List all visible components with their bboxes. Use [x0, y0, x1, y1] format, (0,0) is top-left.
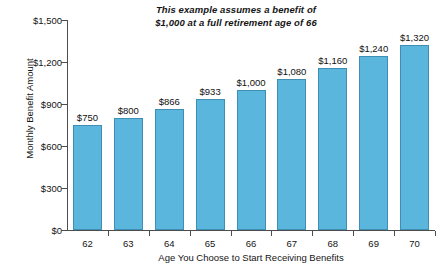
bar-value-label: $1,000 — [236, 77, 265, 88]
bar-value-label: $800 — [118, 105, 139, 116]
x-axis-tick-mark — [435, 231, 436, 236]
x-axis-title: Age You Choose to Start Receiving Benefi… — [67, 252, 435, 263]
y-axis-tick-mark — [61, 20, 67, 21]
x-axis-tick-mark — [190, 231, 191, 236]
x-axis-tick-mark — [108, 231, 109, 236]
y-axis-tick-label: $1,500 — [0, 15, 62, 26]
x-axis-category-label: 68 — [327, 238, 338, 249]
x-axis-tick-mark — [231, 231, 232, 236]
bar — [318, 68, 347, 230]
y-axis-tick-label: $600 — [0, 141, 62, 152]
bar-value-label: $750 — [77, 112, 98, 123]
x-axis-line — [67, 230, 435, 231]
x-axis-category-label: 70 — [409, 238, 420, 249]
x-axis-tick-mark — [149, 231, 150, 236]
bar-chart: This example assumes a benefit of $1,000… — [0, 0, 444, 270]
y-axis-tick-mark — [61, 62, 67, 63]
y-axis-tick-mark — [61, 188, 67, 189]
x-axis-category-label: 64 — [164, 238, 175, 249]
bar — [237, 90, 266, 230]
bar — [114, 118, 143, 230]
x-axis-tick-mark — [271, 231, 272, 236]
x-axis-tick-mark — [353, 231, 354, 236]
bar — [73, 125, 102, 230]
y-axis-tick-label: $900 — [0, 99, 62, 110]
y-axis-tick-label: $300 — [0, 183, 62, 194]
bar-value-label: $1,080 — [277, 66, 306, 77]
y-axis-tick-mark — [61, 146, 67, 147]
x-axis-category-label: 67 — [287, 238, 298, 249]
x-axis-tick-mark — [312, 231, 313, 236]
y-axis-tick-mark — [61, 104, 67, 105]
y-axis-line — [67, 20, 68, 231]
y-axis-tick-label: $1,200 — [0, 57, 62, 68]
chart-annotation-line-2: $1,000 at a full retirement age of 66 — [136, 17, 336, 30]
bar — [359, 56, 388, 230]
bar — [196, 99, 225, 230]
x-axis-category-label: 69 — [368, 238, 379, 249]
y-axis-tick-mark — [61, 230, 67, 231]
bar-value-label: $1,160 — [318, 55, 347, 66]
x-axis-category-label: 66 — [246, 238, 257, 249]
y-axis-tick-label: $0 — [0, 225, 62, 236]
bar-value-label: $1,320 — [400, 32, 429, 43]
bar-value-label: $866 — [159, 96, 180, 107]
bar — [400, 45, 429, 230]
chart-annotation: This example assumes a benefit of $1,000… — [136, 4, 336, 29]
x-axis-category-label: 63 — [123, 238, 134, 249]
bar — [277, 79, 306, 230]
x-axis-category-label: 62 — [82, 238, 93, 249]
bar-value-label: $933 — [200, 86, 221, 97]
y-axis-tick-labels: $0$300$600$900$1,200$1,500 — [0, 0, 62, 270]
x-axis-tick-mark — [394, 231, 395, 236]
bar — [155, 109, 184, 230]
bar-value-label: $1,240 — [359, 43, 388, 54]
chart-annotation-line-1: This example assumes a benefit of — [136, 4, 336, 17]
x-axis-category-label: 65 — [205, 238, 216, 249]
